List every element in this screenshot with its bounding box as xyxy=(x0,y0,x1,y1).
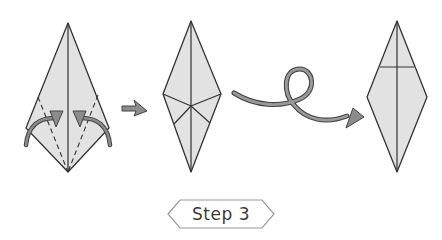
figure-turned-over-diamond xyxy=(367,21,427,172)
next-arrow-icon xyxy=(122,100,147,116)
step-label: Step 3 xyxy=(175,199,267,229)
turn-over-arrow-icon xyxy=(234,69,364,128)
figure-kite-with-fold-lines xyxy=(26,23,110,172)
figure-folded-diamond xyxy=(163,21,221,172)
